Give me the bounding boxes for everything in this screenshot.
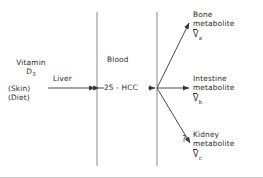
intestine-rate-symbol: Vb [193, 93, 234, 107]
intestine-label-line1: Intestine [193, 74, 234, 83]
source-note-skin: (Skin) [8, 84, 54, 93]
output-node-intestine: Intestine metabolite Vb [193, 74, 234, 107]
source-label-subscript: 3 [32, 72, 36, 78]
intestine-symbol-letter: V [193, 93, 199, 104]
bone-symbol-letter: V [193, 29, 199, 40]
metabolism-diagram: Vitamin D3 (Skin) (Diet) Liver Blood 25 … [0, 0, 263, 178]
source-label-line1: Vitamin [8, 58, 54, 67]
kidney-rate-symbol: Vc [193, 149, 234, 163]
bone-label-line2: metabolite [193, 19, 234, 28]
kidney-symbol-subscript: c [199, 154, 202, 160]
source-origin-notes: (Skin) (Diet) [8, 84, 54, 103]
bone-rate-symbol: Va [193, 29, 234, 43]
kidney-label-line1: Kidney [193, 130, 234, 139]
kidney-symbol-letter: V [193, 149, 199, 160]
intestine-label-line2: metabolite [193, 83, 234, 92]
kidney-label-line2: metabolite [193, 139, 234, 148]
bone-label-line1: Bone [193, 10, 234, 19]
compartment-label-blood: Blood [107, 55, 129, 64]
output-node-kidney: Kidney metabolite Vc [193, 130, 234, 163]
arrow-to-bone-metabolite [157, 23, 189, 88]
bone-symbol-subscript: a [199, 34, 202, 40]
blood-metabolite-label: 25 - HCC [104, 83, 138, 92]
question-mark-annotation: ? [182, 135, 186, 144]
intestine-symbol-subscript: b [199, 98, 203, 104]
source-node-vitamin-d3: Vitamin D3 [8, 58, 54, 80]
output-node-bone: Bone metabolite Va [193, 10, 234, 43]
process-label-liver: Liver [53, 74, 72, 83]
source-label-line2: D3 [8, 67, 54, 80]
source-note-diet: (Diet) [8, 93, 54, 102]
